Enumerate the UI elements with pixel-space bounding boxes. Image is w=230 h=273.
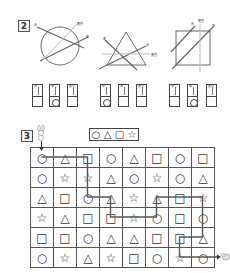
grid-cell[interactable]: □ <box>146 148 169 168</box>
circle-figure: 赤 黄色 青 <box>34 21 89 65</box>
grid-cell[interactable]: △ <box>192 168 215 188</box>
grid-cell[interactable]: ☆ <box>100 248 123 268</box>
grid-cell[interactable]: □ <box>192 148 215 168</box>
grid-cell[interactable]: △ <box>100 168 123 188</box>
grid-cell[interactable]: □ <box>169 208 192 228</box>
grid-cell[interactable]: ☆ <box>146 168 169 188</box>
grid-cell[interactable]: □ <box>123 248 146 268</box>
svg-text:赤: 赤 <box>34 22 37 27</box>
grid-cell[interactable]: □ <box>169 228 192 248</box>
square-icon: □ <box>115 129 124 140</box>
card-label: 赤 <box>102 85 105 88</box>
card-label: 青 <box>120 85 123 88</box>
grid-cell[interactable]: □ <box>146 228 169 248</box>
grid-cell[interactable]: △ <box>100 188 123 208</box>
grid-cell[interactable]: □ <box>31 228 54 248</box>
grid-row: □ □ ○ △ △ □ □ △ <box>31 228 215 248</box>
rod-icon <box>193 87 194 95</box>
answer-card[interactable]: 青 <box>118 84 129 107</box>
grid-cell[interactable]: ☆ <box>54 248 77 268</box>
svg-text:黄色: 黄色 <box>77 21 83 26</box>
grid-cell[interactable]: △ <box>31 188 54 208</box>
circle-mark-icon <box>52 99 60 107</box>
answer-card[interactable]: 赤 <box>100 84 111 107</box>
grid-cell[interactable]: ☆ <box>192 188 215 208</box>
svg-text:黄色: 黄色 <box>151 52 157 57</box>
circle-mark-icon <box>190 99 198 107</box>
grid-cell[interactable]: □ <box>54 228 77 248</box>
grid-cell[interactable]: □ <box>77 148 100 168</box>
rod-icon <box>212 87 213 95</box>
card-label: 赤 <box>34 85 37 88</box>
answer-card[interactable]: 赤 <box>169 84 180 107</box>
grid-cell[interactable]: △ <box>123 228 146 248</box>
grid-row: ○ ☆ ☆ △ ○ ☆ ○ △ <box>31 168 215 188</box>
square-figure: 赤 黄色 青 <box>171 18 215 72</box>
grid-cell[interactable]: ☆ <box>31 208 54 228</box>
grid-cell[interactable]: ○ <box>31 168 54 188</box>
card-label: 青 <box>51 85 54 88</box>
grid-cell[interactable]: ☆ <box>123 208 146 228</box>
card-label: 黄色 <box>138 85 144 88</box>
card-label: 黄色 <box>69 85 75 88</box>
maze-grid: ○ △ □ ○ △ □ ○ □ ○ ☆ ☆ △ ○ ☆ ○ △ △ □ ○ △ … <box>30 147 215 268</box>
grid-cell[interactable]: ○ <box>192 248 215 268</box>
section-3-number: 3 <box>21 130 33 142</box>
rod-icon <box>142 87 143 95</box>
circle-icon: ○ <box>92 129 101 140</box>
answer-card[interactable]: 黄色 <box>67 84 78 107</box>
grid-cell[interactable]: □ <box>169 188 192 208</box>
grid-cell[interactable]: ○ <box>169 168 192 188</box>
svg-text:赤: 赤 <box>146 42 149 47</box>
grid-cell[interactable]: △ <box>123 148 146 168</box>
rod-icon <box>124 87 125 95</box>
grid-row: △ □ ○ △ ☆ △ □ ☆ <box>31 188 215 208</box>
svg-text:青: 青 <box>103 36 106 41</box>
card-label: 黄色 <box>208 85 214 88</box>
grid-cell[interactable]: ○ <box>100 148 123 168</box>
grid-row: ○ △ □ ○ △ □ ○ □ <box>31 148 215 168</box>
svg-text:青: 青 <box>86 34 89 39</box>
grid-cell[interactable]: ○ <box>31 148 54 168</box>
rod-icon <box>73 87 74 95</box>
grid-cell[interactable]: △ <box>77 248 100 268</box>
grid-cell[interactable]: ○ <box>77 188 100 208</box>
svg-text:黄色: 黄色 <box>198 18 204 23</box>
grid-cell[interactable]: △ <box>146 188 169 208</box>
grid-cell[interactable]: □ <box>77 208 100 228</box>
card-label: 赤 <box>171 85 174 88</box>
grid-cell[interactable]: ○ <box>192 208 215 228</box>
answer-card[interactable]: 赤 <box>32 84 43 107</box>
rod-icon <box>175 87 176 95</box>
grid-cell[interactable]: ○ <box>169 148 192 168</box>
triangle-figure: 青 赤 黄色 <box>99 32 157 70</box>
grid-cell[interactable]: ○ <box>77 228 100 248</box>
rod-icon <box>38 87 39 95</box>
grid-cell[interactable]: ☆ <box>169 248 192 268</box>
answer-card[interactable]: 黄色 <box>206 84 217 107</box>
svg-text:赤: 赤 <box>191 21 194 26</box>
answer-card[interactable]: 青 <box>49 84 60 107</box>
triangle-icon: △ <box>104 129 112 140</box>
answer-card[interactable]: 青 <box>187 84 198 107</box>
grid-cell[interactable]: ☆ <box>77 168 100 188</box>
grid-cell[interactable]: ○ <box>146 208 169 228</box>
grid-cell[interactable]: △ <box>54 208 77 228</box>
card-label: 青 <box>189 85 192 88</box>
grid-cell[interactable]: ○ <box>146 248 169 268</box>
grid-cell[interactable]: △ <box>54 148 77 168</box>
grid-cell[interactable]: ☆ <box>54 168 77 188</box>
grid-cell[interactable]: ☆ <box>123 188 146 208</box>
grid-cell[interactable]: △ <box>192 228 215 248</box>
shape-sequence-legend: ○ △ □ ☆ <box>89 128 139 141</box>
grid-cell[interactable]: △ <box>100 228 123 248</box>
answer-card[interactable]: 黄色 <box>136 84 147 107</box>
grid-cell[interactable]: □ <box>54 188 77 208</box>
grid-cell[interactable]: ○ <box>31 248 54 268</box>
grid-cell[interactable]: ○ <box>123 168 146 188</box>
grid-row: ○ ☆ △ ☆ □ ○ ☆ ○ <box>31 248 215 268</box>
rod-icon <box>106 87 107 95</box>
circle-mark-icon <box>103 99 111 107</box>
star-icon: ☆ <box>127 129 136 140</box>
grid-cell[interactable]: □ <box>100 208 123 228</box>
